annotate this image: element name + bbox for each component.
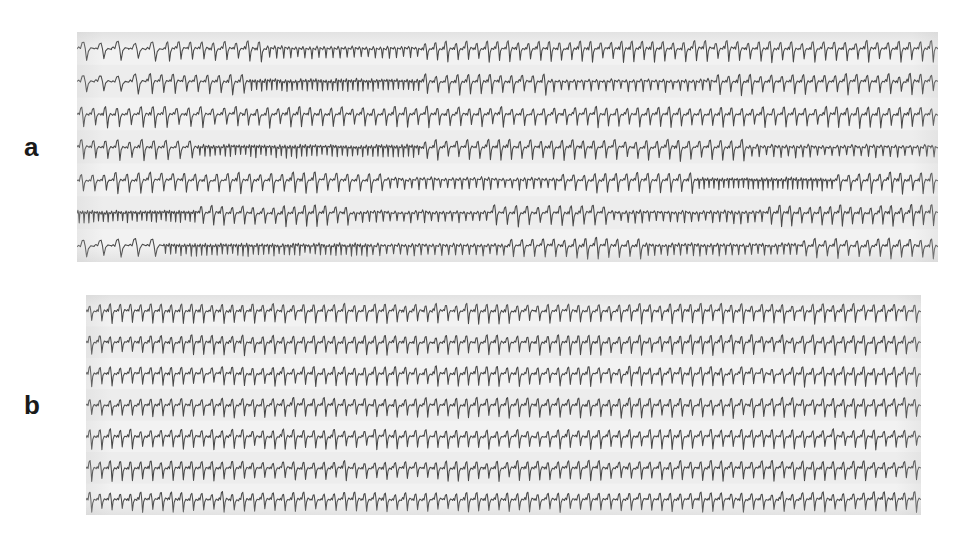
panel-label-a: a [24,134,38,160]
figure-root: a b [0,0,956,539]
ecg-trace-canvas-b [86,295,921,515]
panel-label-b: b [24,392,40,418]
ecg-trace-canvas-a [77,32,938,262]
ecg-strip-panel-a [77,32,938,262]
ecg-strip-panel-b [86,295,921,515]
